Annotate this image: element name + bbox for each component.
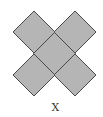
- x-shape-figure: [0, 0, 103, 117]
- diamond-tiles: [13, 11, 96, 96]
- figure-label: X: [0, 101, 103, 114]
